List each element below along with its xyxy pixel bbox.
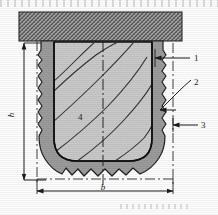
ground-surface-hatch bbox=[19, 12, 182, 41]
callout-3-leader bbox=[173, 118, 198, 132]
scan-artifact-bottom bbox=[120, 204, 190, 209]
callout-4-label: 4 bbox=[78, 112, 83, 122]
scan-artifact-top bbox=[0, 0, 218, 7]
callout-2-leader bbox=[160, 80, 191, 110]
dimension-width-label: b bbox=[101, 182, 106, 192]
callout-1-label: 1 bbox=[194, 53, 199, 63]
dimension-height-label: h bbox=[6, 112, 16, 117]
callout-2-label: 2 bbox=[194, 77, 199, 87]
figure-root: h b 1 2 3 4 bbox=[0, 0, 218, 215]
cross-section-diagram: h b 1 2 3 4 bbox=[0, 0, 218, 215]
callout-3-label: 3 bbox=[201, 120, 206, 130]
